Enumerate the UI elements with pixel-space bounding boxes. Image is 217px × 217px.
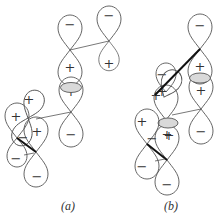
- p-orbital: − +: [97, 6, 121, 71]
- sign-label: +: [11, 109, 22, 124]
- p-orbital: + −: [189, 74, 213, 144]
- sign-label: −: [147, 131, 158, 146]
- sign-label: +: [24, 92, 35, 107]
- sign-label: −: [65, 17, 76, 32]
- bond-line: [155, 159, 165, 161]
- sign-label: −: [66, 127, 77, 142]
- sign-label: −: [162, 177, 173, 192]
- p-orbital: − +: [58, 15, 82, 85]
- panel-b: − + + − − + + − +: [135, 14, 213, 213]
- panel-caption: (b): [164, 199, 178, 213]
- overlap-shading: [190, 73, 211, 83]
- orbital-diagram: − + − + + − + + −: [0, 0, 217, 217]
- sign-label: −: [104, 8, 115, 23]
- sign-label: −: [195, 18, 206, 33]
- panel-caption: (a): [61, 199, 75, 213]
- bond-line: [24, 153, 34, 155]
- sign-label: −: [32, 169, 43, 184]
- sign-label: +: [65, 60, 76, 75]
- sign-label: +: [104, 56, 115, 71]
- sign-label: +: [196, 83, 207, 98]
- overlap-shading: [158, 118, 178, 128]
- sign-label: −: [11, 151, 22, 166]
- sign-label: +: [137, 114, 148, 129]
- overlap-shading: [61, 83, 82, 93]
- panel-a: − + − + + − + + −: [5, 6, 121, 213]
- sign-label: +: [195, 59, 206, 74]
- sign-label: +: [32, 124, 43, 139]
- sign-label: +: [164, 128, 175, 143]
- sign-label: −: [196, 124, 207, 139]
- sign-label: −: [137, 159, 148, 174]
